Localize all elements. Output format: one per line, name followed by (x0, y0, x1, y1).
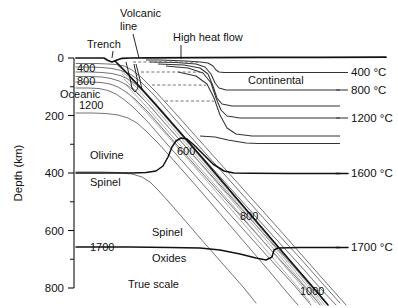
isotherm-800-continental (150, 62, 340, 90)
volcanic-line-leader (133, 34, 139, 58)
right-label-800: 800 °C (351, 84, 386, 96)
y-tick-label-200: 200 (45, 110, 64, 122)
y-tick-label-800: 800 (45, 282, 64, 294)
spinel-upper-label: Spinel (90, 176, 121, 188)
spinel-lower-label: Spinel (152, 226, 183, 238)
right-labels: 400 °C 800 °C 1200 °C 1600 °C 1700 °C (351, 66, 393, 253)
subduction-diagram: 0 200 400 600 800 Depth (km) (0, 0, 398, 308)
y-tick-label-400: 400 (45, 167, 64, 179)
high-heat-flow-label: High heat flow (173, 31, 243, 43)
figure-root: 0 200 400 600 800 Depth (km) (0, 0, 398, 308)
top-annotations: Trench Volcanic line High heat flow (87, 7, 243, 59)
oceanic-label-1200: 1200 (79, 99, 103, 111)
phase-temp-1700: 1700 (90, 241, 114, 253)
right-label-1600: 1600 °C (351, 167, 393, 179)
surface-profile (76, 57, 386, 62)
continental-label: Continental (248, 74, 304, 86)
right-label-leaders (336, 73, 348, 248)
oceanic-label: Oceanic (60, 88, 101, 100)
isotherm-1200b-oceanic (76, 88, 311, 305)
trench-label: Trench (87, 38, 121, 50)
slab-line-6 (127, 92, 310, 302)
trench-leader (112, 51, 113, 58)
volcanic-line-label-2: line (120, 20, 137, 32)
subducting-slab (115, 61, 328, 305)
oceanic-label-800: 800 (77, 75, 95, 87)
oxides-label: Oxides (152, 252, 187, 264)
oceanic-isotherm-labels: 400 800 1200 Oceanic (60, 62, 103, 111)
true-scale-note: True scale (128, 278, 179, 290)
phase-temp-600: 600 (177, 145, 195, 157)
phase-labels: Olivine Spinel Spinel Oxides 600 1700 (90, 145, 195, 264)
y-tick-label-600: 600 (45, 225, 64, 237)
slab-label-1000: 1000 (300, 285, 324, 297)
y-axis-title: Depth (km) (12, 144, 24, 201)
right-label-400: 400 °C (351, 66, 386, 78)
right-label-1200: 1200 °C (351, 112, 393, 124)
slab-line-4 (124, 79, 318, 302)
oceanic-label-400: 400 (77, 62, 95, 74)
right-label-1700: 1700 °C (351, 241, 393, 253)
isotherm-mid-continental-3 (200, 136, 340, 144)
volcanic-line-label-1: Volcanic (120, 7, 161, 19)
isotherm-1200-oceanic (76, 82, 320, 305)
y-tick-label-0: 0 (58, 52, 64, 64)
olivine-label: Olivine (90, 149, 124, 161)
slab-label-800: 800 (240, 210, 258, 222)
